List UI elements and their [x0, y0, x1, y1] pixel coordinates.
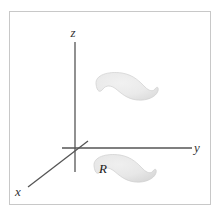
x-axis-label: x: [14, 184, 21, 199]
region-r-label: R: [98, 161, 107, 176]
z-axis-label: z: [69, 25, 75, 40]
y-axis-label: y: [192, 140, 200, 155]
figure-border: [10, 12, 211, 205]
math-diagram-figure: z y x R: [0, 0, 220, 215]
diagram-canvas: z y x R: [0, 0, 220, 215]
